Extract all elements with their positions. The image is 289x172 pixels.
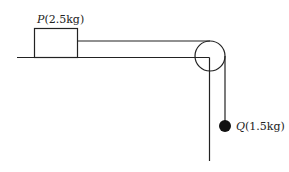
ball-q <box>219 120 231 132</box>
pulley-diagram: P(2.5kg) Q(1.5kg) <box>0 0 289 172</box>
ball-q-label: Q(1.5kg) <box>236 120 285 133</box>
block-p-label: P(2.5kg) <box>36 13 84 26</box>
block-p <box>35 29 78 58</box>
